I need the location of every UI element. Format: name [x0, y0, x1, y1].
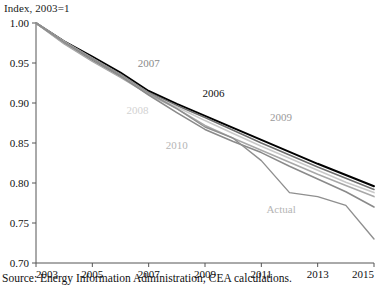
svg-text:0.80: 0.80 [10, 177, 30, 189]
series-annotations: 20072008200620092010Actual [126, 57, 295, 215]
line-chart-plot: 1.000.950.900.850.800.750.70 20032005200… [0, 0, 378, 289]
source-note: Source: Energy Information Administratio… [2, 272, 292, 284]
svg-text:2010: 2010 [166, 139, 189, 151]
chart-container: Index, 2003=1 1.000.950.900.850.800.750.… [0, 0, 378, 289]
svg-text:0.90: 0.90 [10, 97, 30, 109]
svg-text:2006: 2006 [202, 87, 225, 99]
svg-text:0.75: 0.75 [10, 217, 30, 229]
series-lines [36, 23, 374, 239]
svg-text:1.00: 1.00 [10, 17, 30, 29]
svg-text:2007: 2007 [138, 57, 161, 69]
svg-text:2013: 2013 [307, 268, 330, 280]
axis-lines [36, 23, 374, 263]
svg-text:0.95: 0.95 [10, 57, 30, 69]
svg-text:2008: 2008 [126, 104, 149, 116]
y-axis-ticks: 1.000.950.900.850.800.750.70 [10, 17, 36, 269]
svg-text:Actual: Actual [266, 203, 295, 215]
svg-text:0.85: 0.85 [10, 137, 30, 149]
svg-text:2015: 2015 [352, 268, 375, 280]
svg-text:2009: 2009 [270, 111, 293, 123]
svg-text:0.70: 0.70 [10, 257, 30, 269]
